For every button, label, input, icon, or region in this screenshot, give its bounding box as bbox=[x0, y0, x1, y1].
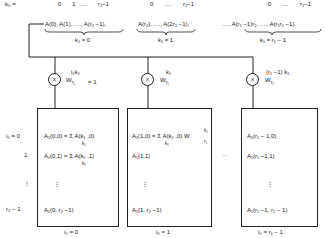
k0-group2-end: r₂−1 bbox=[183, 1, 194, 8]
output-block-i0-r1-minus-1: A₁(r₁ − 1,0) A₁(r₁ −1,1) ⋮ A₁(r₁ −1, r₂ … bbox=[241, 108, 318, 227]
block2-row0-w-subscript: r₁ bbox=[204, 138, 207, 145]
block2-row1: A₁(1,1) bbox=[132, 153, 150, 160]
ellipsis-between-blocks: ··· bbox=[222, 152, 228, 159]
group-k1-last-content: ...., A(r₁ −1)r₂, ...., A(r₁r₂ −1) bbox=[222, 21, 294, 28]
k0-group1-start: 0 bbox=[58, 1, 61, 8]
multiplier2-twiddle: Wr₁ bbox=[160, 77, 169, 86]
multiplier1-suffix: = 1 bbox=[88, 79, 97, 86]
multiplier1-twiddle: Wr₁ bbox=[66, 77, 75, 86]
group-k1-1-content: A(r₂), ...., A(2r₂ −1), bbox=[138, 21, 189, 28]
block3-row0: A₁(r₁ − 1,0) bbox=[247, 133, 276, 140]
multiply-icon: x bbox=[141, 73, 154, 86]
block1-row1-sum-index: k₁ bbox=[82, 160, 86, 167]
k0-group1-second: 1 bbox=[72, 1, 75, 8]
block3-row1: A₁(r₁ −1,1) bbox=[247, 153, 275, 160]
block1-dots: ⋮ bbox=[54, 181, 60, 188]
block2-last-row: A₁(1, r₂ −1) bbox=[132, 207, 162, 214]
block1-last-row: A₁(0, r₂ −1) bbox=[44, 207, 74, 214]
block1-row0: A₁(0,0) = Σ A(k₁ ,0) bbox=[44, 133, 94, 140]
multiplier3-twiddle: Wr₁ bbox=[265, 77, 274, 86]
k0-group2-start: 0 bbox=[150, 1, 153, 8]
k0-group2-dots: .... bbox=[165, 1, 172, 8]
block2-dots: ⋮ bbox=[142, 181, 148, 188]
k0-group1-end: r₂−1 bbox=[98, 1, 109, 8]
group-k1-0-content: A(0), A(1), ...., A(r₂ −1), bbox=[45, 21, 106, 28]
block2-row0-sum-index: k₁ bbox=[165, 140, 169, 147]
row-label-i0-0: i₀ = 0 bbox=[6, 133, 20, 140]
k0-group3-dots: .... bbox=[282, 1, 289, 8]
block2-footer: i₀ = 1 bbox=[156, 229, 170, 236]
block3-last-row: A₁(r₁ −1, r₂ − 1) bbox=[247, 207, 287, 214]
group-k1-1-label: k₁ = 1 bbox=[158, 37, 173, 44]
block2-row0-w-exponent: k₁ bbox=[204, 127, 208, 134]
multiply-icon: x bbox=[246, 73, 259, 86]
output-block-i0-1: A₁(1,0) = Σ A(k₁ ,0) W k₁ r₁ k₁ A₁(1,1) … bbox=[127, 108, 212, 227]
output-block-i0-0: A₁(0,0) = Σ A(k₁ ,0) k₁ A₁(0,1) = Σ A(k₁… bbox=[37, 108, 119, 227]
multiplier3-exponent: (r₁ −1) k₁ bbox=[266, 69, 289, 76]
block3-dots: ⋮ bbox=[267, 181, 273, 188]
row-label-r2-minus-1: r₂ − 1 bbox=[6, 206, 21, 213]
k0-group3-start: 0 bbox=[268, 1, 271, 8]
row-label-dots: ⋮ bbox=[24, 180, 30, 187]
multiply-icon: x bbox=[48, 73, 61, 86]
k0-label: k₀ = bbox=[5, 1, 16, 8]
block1-row0-sum-index: k₁ bbox=[82, 140, 86, 147]
row-label-1: 1 bbox=[24, 152, 27, 159]
block2-row0: A₁(1,0) = Σ A(k₁ ,0) W bbox=[132, 133, 190, 140]
group-k1-0-label: k₁ = 0 bbox=[75, 37, 90, 44]
multiplier1-exponent: i₀k₁ bbox=[71, 69, 80, 76]
block1-footer: i₀ = 0 bbox=[64, 229, 78, 236]
block1-row1: A₁(0,1) = Σ A(k₁ ,1) bbox=[44, 153, 94, 160]
k0-group3-end: r₂−1 bbox=[300, 1, 311, 8]
k0-group1-dots: .... bbox=[80, 1, 87, 8]
group-k1-last-label: k₁ = r₁ − 1 bbox=[260, 37, 286, 44]
multiplier2-exponent: k₁ bbox=[166, 69, 171, 76]
block3-footer: i₀ = r₁ − 1 bbox=[258, 229, 283, 236]
